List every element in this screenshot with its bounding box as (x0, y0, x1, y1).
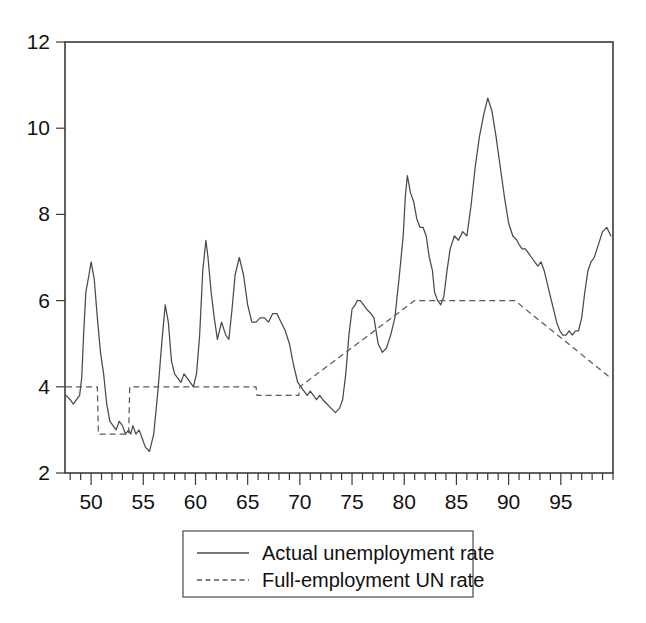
x-tick-label: 90 (497, 490, 520, 513)
x-tick-label: 95 (549, 490, 572, 513)
x-tick-label: 85 (445, 490, 468, 513)
chart-legend: Actual unemployment rate Full-employment… (183, 531, 494, 597)
series-line-full-employment-un-rate (66, 301, 611, 435)
x-tick-label: 70 (288, 490, 311, 513)
x-tick-label: 75 (340, 490, 363, 513)
x-tick-label: 55 (132, 490, 155, 513)
y-tick-label: 10 (27, 116, 50, 139)
y-tick-label: 8 (38, 202, 50, 225)
x-tick-label: 60 (184, 490, 207, 513)
y-tick-label: 12 (27, 30, 50, 53)
chart-canvas: 24681012 50556065707580859095 Actual une… (0, 0, 646, 623)
series-line-actual-unemployment-rate (66, 98, 611, 451)
y-tick-label: 4 (38, 375, 50, 398)
y-axis: 24681012 (27, 30, 65, 484)
x-axis: 50556065707580859095 (70, 473, 613, 513)
legend-label-actual-unemployment-rate: Actual unemployment rate (262, 542, 494, 564)
series-group (66, 98, 611, 451)
unemployment-rate-figure: 24681012 50556065707580859095 Actual une… (0, 0, 646, 623)
y-tick-label: 6 (38, 289, 50, 312)
x-tick-label: 80 (393, 490, 416, 513)
x-tick-label: 50 (79, 490, 102, 513)
y-tick-label: 2 (38, 461, 50, 484)
x-tick-label: 65 (236, 490, 259, 513)
legend-label-full-employment-un-rate: Full-employment UN rate (262, 569, 484, 591)
